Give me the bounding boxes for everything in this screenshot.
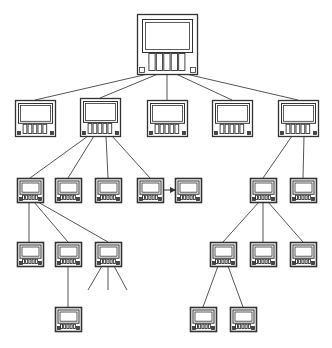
device-nodes: [16, 15, 319, 332]
connection-line: [30, 136, 88, 178]
port-slot-icon: [26, 259, 28, 263]
port-slot-icon: [104, 259, 106, 263]
port-slot-icon: [248, 324, 250, 328]
port-slot-icon: [23, 124, 27, 133]
port-slot-icon: [202, 324, 204, 328]
port-slot-icon: [93, 123, 97, 133]
device-node-l4b[interactable]: [191, 308, 217, 332]
status-led-icon: [83, 132, 86, 135]
device-node-l3b[interactable]: [56, 243, 82, 267]
connection-line: [112, 136, 150, 178]
port-slot-icon: [239, 324, 241, 328]
device-node-l3a[interactable]: [18, 243, 44, 267]
port-slot-icon: [73, 324, 75, 328]
port-slot-icon: [301, 124, 305, 133]
status-led-icon: [293, 262, 296, 265]
screen-icon: [142, 183, 159, 192]
port-slot-icon: [306, 124, 310, 133]
port-slot-icon: [305, 259, 307, 263]
device-node-l2b[interactable]: [56, 179, 82, 203]
status-led-icon: [233, 327, 236, 330]
port-slot-icon: [179, 54, 185, 71]
device-node-l3d[interactable]: [211, 243, 237, 267]
screen-icon: [100, 183, 117, 192]
port-slot-icon: [208, 324, 210, 328]
port-slot-icon: [220, 124, 224, 133]
status-led-icon: [18, 132, 21, 135]
status-led-icon: [140, 198, 143, 201]
status-led-icon: [77, 262, 80, 265]
device-node-l1a[interactable]: [16, 101, 56, 137]
device-node-l1d[interactable]: [213, 101, 253, 137]
device-node-l2g[interactable]: [291, 179, 317, 203]
device-node-l2e[interactable]: [176, 179, 202, 203]
port-slot-icon: [29, 259, 31, 263]
device-node-l1b[interactable]: [81, 99, 121, 137]
connection-line: [303, 136, 304, 178]
port-slot-icon: [28, 124, 32, 133]
connection-line: [223, 202, 259, 242]
device-node-root[interactable]: [138, 15, 198, 75]
status-led-icon: [58, 198, 61, 201]
status-led-icon: [183, 132, 186, 135]
port-slot-icon: [32, 195, 34, 199]
port-slot-icon: [235, 124, 239, 133]
connection-line: [203, 266, 218, 307]
status-led-icon: [312, 262, 315, 265]
screen-icon: [180, 183, 197, 192]
device-node-l3c[interactable]: [96, 243, 122, 267]
status-led-icon: [212, 327, 215, 330]
port-slot-icon: [262, 259, 264, 263]
screen-icon: [60, 247, 77, 256]
device-node-l4a[interactable]: [56, 308, 82, 332]
port-slot-icon: [26, 195, 28, 199]
status-led-icon: [20, 198, 23, 201]
port-slot-icon: [155, 195, 157, 199]
status-led-icon: [215, 132, 218, 135]
device-node-l1c[interactable]: [148, 101, 188, 137]
screen-icon: [295, 183, 312, 192]
port-slot-icon: [108, 123, 112, 133]
status-led-icon: [312, 198, 315, 201]
status-led-icon: [77, 327, 80, 330]
screen-icon: [295, 247, 312, 256]
status-led-icon: [197, 198, 200, 201]
status-led-icon: [178, 198, 181, 201]
port-slot-icon: [149, 54, 155, 71]
device-node-l2c[interactable]: [96, 179, 122, 203]
connection-line: [228, 266, 243, 307]
status-led-icon: [140, 68, 145, 73]
device-node-l4c[interactable]: [231, 308, 257, 332]
open-connection-line: [88, 266, 102, 290]
port-slot-icon: [64, 324, 66, 328]
screen-icon: [60, 183, 77, 192]
device-node-l3e[interactable]: [251, 243, 277, 267]
device-node-l3f[interactable]: [291, 243, 317, 267]
screen-icon: [195, 312, 212, 321]
status-led-icon: [191, 68, 196, 73]
port-slot-icon: [155, 124, 159, 133]
connection-line: [268, 202, 303, 242]
status-led-icon: [98, 198, 101, 201]
port-slot-icon: [308, 259, 310, 263]
screen-icon: [22, 247, 39, 256]
screen-icon: [21, 106, 51, 122]
device-tree-diagram: [0, 0, 332, 348]
port-slot-icon: [38, 124, 42, 133]
status-led-icon: [39, 198, 42, 201]
status-led-icon: [117, 198, 120, 201]
connection-line: [106, 136, 108, 178]
status-led-icon: [213, 262, 216, 265]
device-node-l2f[interactable]: [251, 179, 277, 203]
status-led-icon: [159, 198, 162, 201]
port-slot-icon: [268, 259, 270, 263]
port-slot-icon: [308, 195, 310, 199]
status-led-icon: [117, 262, 120, 265]
device-node-l1e[interactable]: [279, 101, 319, 137]
screen-icon: [153, 106, 183, 122]
device-node-l2d[interactable]: [138, 179, 164, 203]
port-slot-icon: [110, 259, 112, 263]
screen-icon: [100, 247, 117, 256]
port-slot-icon: [259, 259, 261, 263]
device-node-l2a[interactable]: [18, 179, 44, 203]
